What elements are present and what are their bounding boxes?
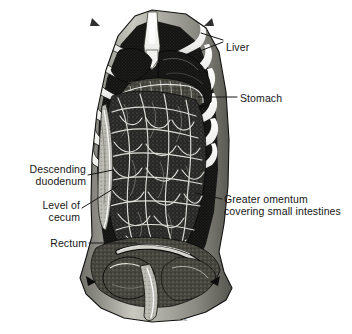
label-greater-omentum-line2: covering small intestines (224, 205, 341, 217)
artist-credit-mark: ill.nL (180, 318, 188, 322)
label-descending-duodenum-line1: Descending (0, 163, 86, 175)
anatomical-figure: Liver Stomach Descending duodenum Level … (0, 0, 352, 334)
label-descending-duodenum: Descending duodenum (0, 163, 86, 187)
label-stomach: Stomach (240, 92, 282, 104)
label-rectum: Rectum (0, 237, 87, 249)
label-level-of-cecum-line2: cecum (0, 211, 80, 223)
label-greater-omentum: Greater omentum covering small intestine… (224, 193, 341, 217)
label-descending-duodenum-line2: duodenum (0, 175, 86, 187)
label-level-of-cecum-line1: Level of (0, 199, 80, 211)
label-level-of-cecum: Level of cecum (0, 199, 80, 223)
label-greater-omentum-line1: Greater omentum (224, 193, 341, 205)
label-liver: Liver (226, 41, 249, 53)
